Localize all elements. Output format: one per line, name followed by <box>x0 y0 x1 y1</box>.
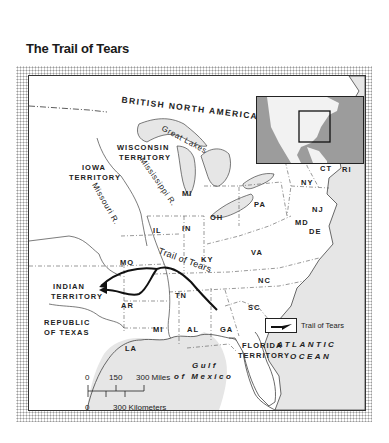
scale-miles-150: 150 <box>109 373 122 382</box>
legend-label: Trail of Tears <box>301 321 344 330</box>
state-label-nj: NJ <box>312 206 324 214</box>
label-iowa: IOWA <box>82 164 106 172</box>
label-iowa-territory: TERRITORY <box>69 174 121 182</box>
north-america-inset <box>257 97 363 163</box>
state-label-md: MD <box>295 219 309 227</box>
scale-ruler <box>87 385 147 401</box>
main-map: BRITISH NORTH AMERICA Great Lakes WISCON… <box>28 75 366 411</box>
state-label-in: IN <box>182 225 192 233</box>
legend-symbol-box <box>265 318 297 333</box>
state-label-sc: SC <box>248 304 260 312</box>
state-label-ri: RI <box>342 166 352 174</box>
state-label-ms: MI <box>153 326 163 334</box>
state-label-il: IL <box>153 227 162 235</box>
state-label-tn: TN <box>175 292 187 300</box>
state-label-va: VA <box>251 249 263 257</box>
state-label-mo: MO <box>120 259 134 267</box>
state-label-al: AL <box>187 326 199 334</box>
state-label-de: DE <box>309 228 321 236</box>
inset-locator-map <box>256 96 364 164</box>
state-label-mi: MI <box>182 190 192 198</box>
state-label-pa: PA <box>254 201 266 209</box>
state-label-ar: AR <box>121 302 134 310</box>
label-gulf: Gulf <box>192 362 218 370</box>
map-title: The Trail of Tears <box>26 41 129 56</box>
label-indian-territory: TERRITORY <box>51 293 103 301</box>
scale-km-300: 300 Kilometers <box>113 403 166 412</box>
map-legend: Trail of Tears <box>265 318 344 333</box>
label-republic: REPUBLIC <box>44 319 90 327</box>
state-label-ct: CT <box>320 165 332 173</box>
state-label-ny: NY <box>301 179 313 187</box>
scale-miles-300: 300 Miles <box>136 373 170 382</box>
scale-km-0: 0 <box>85 403 89 412</box>
state-label-ga: GA <box>220 326 233 334</box>
state-label-oh: OH <box>210 214 223 222</box>
state-label-la: LA <box>125 345 137 353</box>
label-wisconsin: WISCONSIN <box>117 144 169 152</box>
scale-miles-0: 0 <box>85 373 89 382</box>
label-indian: INDIAN <box>53 283 85 291</box>
label-ocean: OCEAN <box>290 353 331 361</box>
label-of-texas: OF TEXAS <box>44 329 90 337</box>
label-atlantic: ATLANTIC <box>277 341 336 349</box>
trail-arrow-icon <box>266 320 296 333</box>
label-of-mexico: of Mexico <box>174 373 233 381</box>
label-florida-territory: TERRITORY <box>238 352 290 360</box>
state-label-nc: NC <box>258 277 271 285</box>
